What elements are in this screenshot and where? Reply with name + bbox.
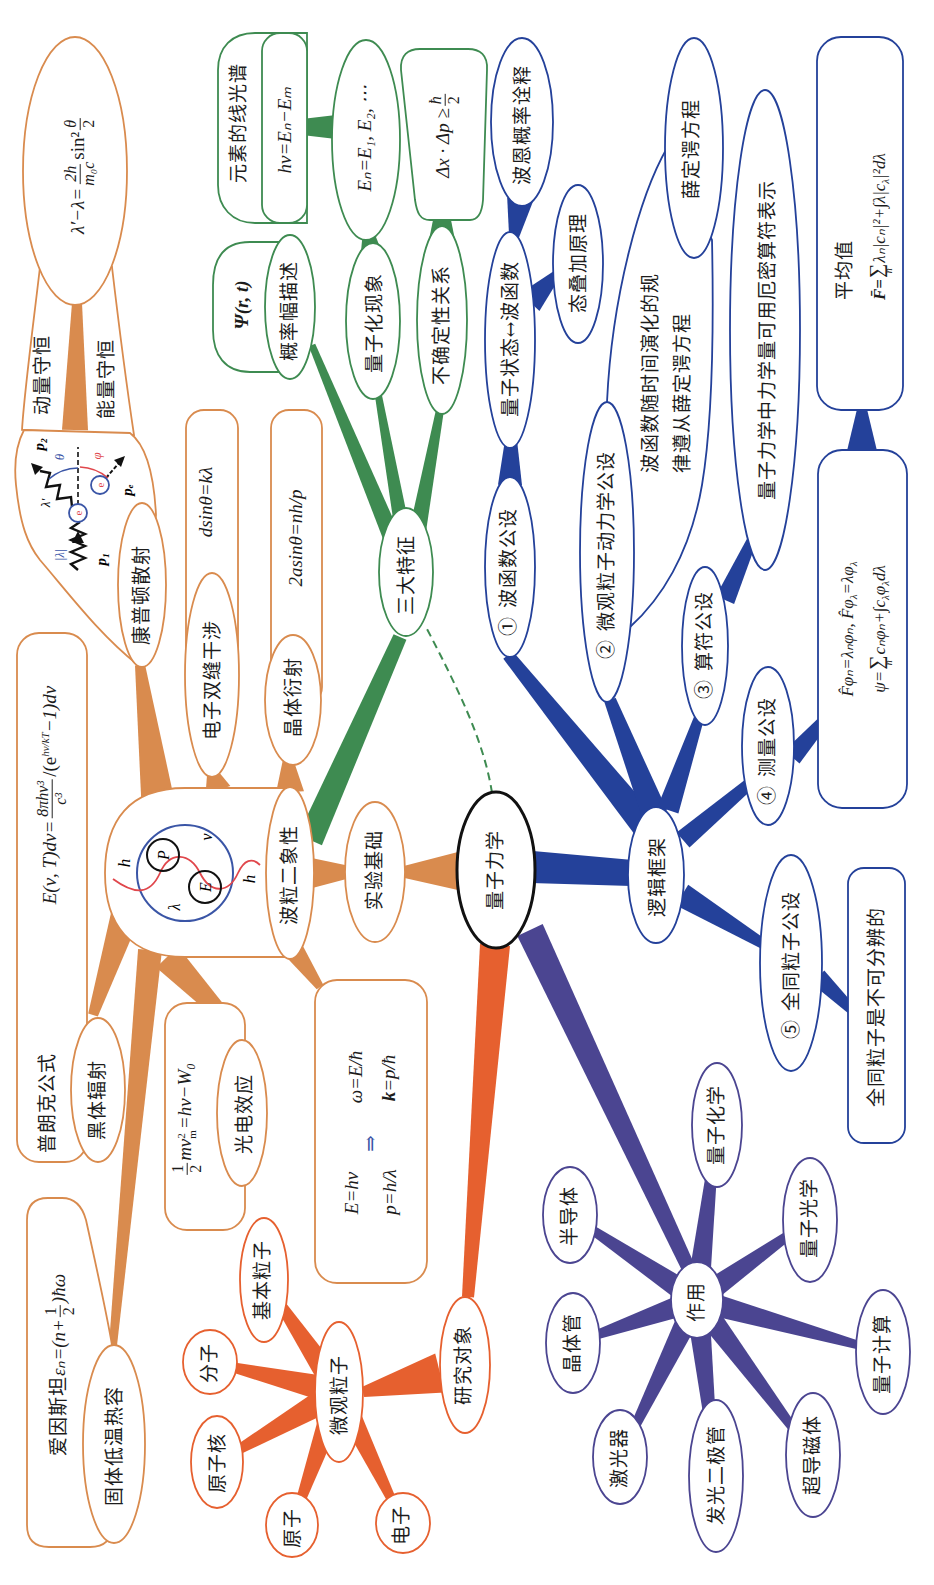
eigen-sub2: λ (847, 561, 859, 566)
lambda-prime-label: λ′ (38, 499, 53, 509)
connector-duality-heat-capacity (109, 949, 162, 1346)
elementary-particles-label: 基本粒子 (252, 1240, 274, 1320)
einstein-prefix: 爱因斯坦 (47, 1376, 69, 1456)
quantum-computing-label: 量子计算 (872, 1314, 894, 1394)
sum-symbol: ∑n (868, 656, 894, 670)
planck-den: c³ (53, 793, 70, 805)
uncertainty-lhs: Δx · Δp ≥ (432, 108, 453, 178)
hermitian-operator-label: 量子力学中力学量可用厄密算符表示 (757, 180, 779, 500)
einstein-formula: 爱因斯坦εₙ=(n+12)ħω (43, 1274, 78, 1456)
wave-particle-duality-label: 波粒二象性 (279, 825, 301, 925)
planck-tail: −1)dν (39, 686, 60, 733)
superconducting-magnet-label: 超导磁体 (802, 1415, 824, 1495)
symbol-p: P (155, 850, 172, 861)
symbol-lambda: λ (166, 903, 183, 911)
debroglie-omega: ω=E/ħ (345, 1051, 367, 1104)
planck-exp: hν/kT (39, 732, 51, 756)
quantization-label: 量子化现象 (364, 273, 386, 373)
expansion-c: φ (870, 586, 889, 595)
pe-label: pₑ (119, 484, 135, 498)
energy-conservation-label: 能量守恒 (96, 339, 118, 419)
mean-sigma-index: n (885, 268, 894, 273)
blackbody-label: 黑体辐射 (87, 1060, 109, 1140)
eigen-b: =λφ (838, 566, 857, 594)
expansion-equation: ψ=∑ncₙφₙ+∫cλφλdλ (868, 565, 894, 693)
superposition-label: 态叠加原理 (568, 213, 590, 313)
einstein-num: 1 (43, 1305, 61, 1317)
compton-den2: 2 (81, 120, 98, 128)
eigen-sub1: λ (847, 594, 859, 599)
dynamics-description-line1: 波函数随时间演化的规 (640, 273, 662, 473)
symbol-nu: ν (198, 833, 215, 841)
expansion-sub1: λ (879, 595, 891, 600)
eigen-equation: F̂φₙ=λₙφₙ, F̂φλ=λφλ (838, 561, 860, 696)
connector-logic-postulate5 (676, 885, 768, 950)
photo-sub: m (187, 1130, 198, 1139)
photoelectric-label: 光电效应 (234, 1074, 256, 1154)
debroglie-box (315, 980, 427, 1283)
connector-research-micro (362, 1354, 445, 1397)
expansion-d: dλ (870, 565, 889, 581)
laser-label: 激光器 (609, 1428, 631, 1488)
crystal-diffraction-label: 晶体衍射 (283, 657, 305, 737)
postulate-dynamics-label: ② 微观粒子动力学公设 (596, 451, 618, 658)
probability-amplitude-label: 概率幅描述 (279, 261, 301, 361)
quantum-mechanics-mind-map: P E ν λ h h e e θ φ p₂ pₑ λ′ |λ| p₁ (0, 0, 934, 1585)
line-spectrum-formula: hν=Eₙ−Eₘ (274, 87, 296, 174)
einstein-close: )ħω (48, 1274, 69, 1303)
planck-lhs: E(ν, T)dν= (39, 821, 60, 905)
wavefunction-symbol: Ψ(r, t) (231, 281, 253, 330)
connector-logic-postulate3 (658, 713, 705, 813)
compton-formula: λ′−λ=2hm₀csin²θ2 (63, 116, 98, 234)
applications-label: 作用 (686, 1282, 708, 1322)
uncertainty-formula: Δx · Δp ≥ħ2 (428, 92, 463, 178)
connector-qm-research-object (462, 944, 510, 1298)
quantum-chemistry-label: 量子化学 (706, 1085, 728, 1165)
eigen-a: F̂φₙ=λₙφₙ, F̂φ (838, 599, 857, 696)
p1-label: p₁ (93, 553, 109, 568)
compton-fraction: 2hm₀c (63, 162, 98, 186)
quantum-optics-label: 量子光学 (799, 1178, 821, 1258)
dashed-connector-qm-three-features (426, 627, 492, 793)
heat-capacity-label: 固体低温热容 (104, 1386, 126, 1506)
photo-tail: =hν−W₀ (174, 1063, 195, 1129)
sigma-index: n (885, 660, 894, 665)
connector-logic-postulate4 (677, 780, 752, 847)
uncertainty-fraction: ħ2 (428, 94, 463, 106)
theta-label: θ (52, 453, 67, 460)
three-features-label: 三大特征 (396, 535, 418, 615)
debroglie-energy: E=hν (341, 1172, 363, 1214)
photo-num: 1 (170, 1163, 188, 1175)
planck-mid: /(e (39, 757, 60, 777)
uncertainty-num: ħ (428, 94, 446, 106)
mean-value-label: 平均值 (834, 240, 856, 300)
planck-formula: E(ν, T)dν=8πhν³c³/(ehν/kT−1)dν (35, 686, 70, 905)
born-label: 波恩概率诠释 (512, 65, 534, 185)
p2-label: p₂ (31, 438, 47, 453)
mean-value-formula: F̄=∑nλₙ|cₙ|²+∫λ|cλ|²dλ (868, 153, 894, 300)
electron-label: 电子 (391, 1505, 413, 1545)
compton-label: 康普顿散射 (131, 545, 153, 645)
debroglie-k: k=p/ħ (378, 1055, 400, 1102)
expansion-a: ψ= (870, 671, 889, 693)
uncertainty-label: 不确定性关系 (431, 265, 453, 385)
planck-fraction: 8πhν³c³ (35, 779, 70, 819)
postulate-measurement-label: ④ 测量公设 (757, 697, 779, 804)
momentum-conservation-label: 动量守恒 (32, 335, 54, 415)
postulate-wavefunction-label: ① 波函数公设 (498, 508, 520, 635)
compton-num2: θ (63, 118, 81, 130)
led-label: 发光二极管 (706, 1425, 728, 1525)
debroglie-momentum: p=h/λ (379, 1169, 401, 1214)
photoelectric-formula: 12mv2m=hν−W₀ (170, 1063, 205, 1177)
logic-framework-label: 逻辑框架 (647, 837, 669, 917)
photo-half: 12 (170, 1163, 205, 1175)
implies-arrow-icon: ⇒ (359, 1134, 382, 1152)
mean-sub1: λ (879, 179, 891, 184)
double-slit-label: 电子双缝干涉 (202, 620, 224, 740)
center-label: 量子力学 (485, 830, 507, 910)
expansion-b: cₙφₙ+∫c (870, 600, 889, 655)
compton-num: 2h (63, 164, 81, 184)
uncertainty-den: 2 (446, 96, 463, 104)
expansion-sub2: λ (879, 581, 891, 586)
photo-supsub: 2m (176, 1130, 198, 1139)
